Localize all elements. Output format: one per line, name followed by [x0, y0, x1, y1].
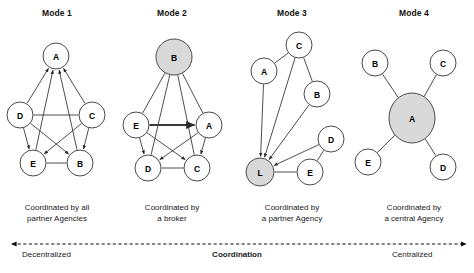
mode-caption: Coordinated by allpartner Agencies	[25, 203, 89, 224]
mode-title: Mode 4	[399, 8, 429, 18]
mode-caption-line-2: a broker	[145, 214, 199, 225]
graph-node: B	[304, 81, 330, 107]
graph-node: A	[196, 112, 222, 138]
graph-edge	[36, 70, 53, 150]
graph-edge	[424, 75, 436, 96]
graph-edge	[178, 75, 195, 155]
graph-node: E	[20, 150, 46, 176]
graph-node: C	[430, 50, 456, 76]
graph-node: A	[389, 93, 435, 143]
mode-title: Mode 2	[157, 8, 187, 18]
mode-caption: Coordinated bya partner Agency	[262, 203, 322, 224]
mode-caption-line-2: a partner Agency	[262, 214, 322, 225]
graph-edge	[425, 139, 435, 156]
mode-title: Mode 1	[42, 8, 72, 18]
graph-edge	[201, 138, 205, 154]
graph-node: D	[7, 102, 33, 128]
mode-caption: Coordinated bya broker	[145, 203, 199, 224]
node-label: A	[261, 67, 267, 77]
node-label: A	[409, 114, 415, 124]
node-label: D	[328, 135, 334, 145]
graph-node: L	[246, 158, 274, 186]
graph-edge	[143, 73, 165, 113]
graph-nodes: ADCEBBEADCCABDELABCED	[7, 32, 456, 186]
graph-node: D	[318, 126, 344, 152]
node-label: B	[171, 53, 177, 63]
graph-edge	[27, 68, 48, 103]
graph-edge	[317, 150, 324, 160]
node-label: E	[307, 168, 313, 178]
mode-caption-line-1: Coordinated by all	[25, 203, 89, 214]
node-label: E	[133, 121, 139, 131]
node-label: E	[365, 158, 371, 168]
graph-node: D	[430, 154, 456, 180]
graph-edge	[182, 73, 202, 113]
graph-edge	[151, 75, 170, 155]
node-label: L	[257, 168, 262, 178]
node-label: D	[145, 164, 151, 174]
graph-edge	[304, 58, 313, 82]
mode-caption-line-1: Coordinated by	[384, 203, 443, 214]
node-label: E	[30, 159, 36, 169]
graph-edge	[84, 128, 89, 149]
graph-node: B	[362, 50, 388, 76]
node-label: C	[89, 111, 95, 121]
graph-node: E	[297, 159, 323, 185]
node-label: B	[372, 59, 378, 69]
graph-node: A	[251, 58, 277, 84]
graph-edge	[378, 135, 395, 152]
graph-edge	[383, 74, 399, 97]
graph-node: E	[355, 149, 381, 175]
mode-caption-line-2: a central Agency	[384, 214, 443, 225]
node-label: A	[53, 52, 59, 62]
graph-node: D	[135, 155, 161, 181]
graph-edge	[140, 138, 144, 154]
axis-label-decentralized: Decentralized	[22, 250, 71, 259]
graph-edge	[59, 70, 77, 150]
graph-edge	[261, 84, 264, 156]
axis-label-coordination: Coordination	[212, 250, 262, 259]
mode-caption-line-1: Coordinated by	[145, 203, 199, 214]
node-label: C	[296, 41, 302, 51]
node-label: D	[440, 163, 446, 173]
node-label: B	[77, 159, 83, 169]
node-label: C	[194, 164, 200, 174]
graph-node: A	[43, 43, 69, 69]
coordination-modes-figure: ADCEBBEADCCABDELABCED Mode 1Mode 2Mode 3…	[0, 0, 474, 273]
node-label: C	[440, 59, 446, 69]
graph-node: B	[67, 150, 93, 176]
graph-node: E	[123, 112, 149, 138]
node-label: B	[314, 90, 320, 100]
graph-node: C	[79, 102, 105, 128]
axis-label-centralized: Centralized	[392, 250, 432, 259]
node-label: A	[206, 121, 212, 131]
graph-node: B	[156, 39, 192, 75]
mode-title: Mode 3	[277, 8, 307, 18]
graph-edge	[24, 128, 30, 149]
graph-node: C	[184, 155, 210, 181]
mode-caption-line-1: Coordinated by	[262, 203, 322, 214]
graph-layer: ADCEBBEADCCABDELABCED	[0, 0, 474, 273]
node-label: D	[17, 111, 23, 121]
graph-edge	[269, 105, 309, 160]
mode-caption-line-2: partner Agencies	[25, 214, 89, 225]
graph-edge	[64, 68, 85, 103]
graph-node: C	[286, 32, 312, 58]
graph-edge	[275, 53, 288, 63]
mode-caption: Coordinated bya central Agency	[384, 203, 443, 224]
